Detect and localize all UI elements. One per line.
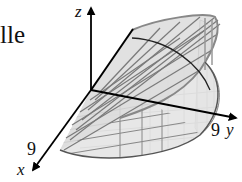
z-axis-label: z: [75, 3, 82, 20]
3d-solid-figure: [0, 0, 242, 182]
x-axis-label: x: [17, 161, 25, 178]
y-axis-label: y: [226, 121, 234, 138]
y-axis-tick-label: 9: [211, 121, 220, 139]
x-axis-tick-label: 9: [27, 140, 36, 158]
side-text: lle: [0, 22, 25, 47]
